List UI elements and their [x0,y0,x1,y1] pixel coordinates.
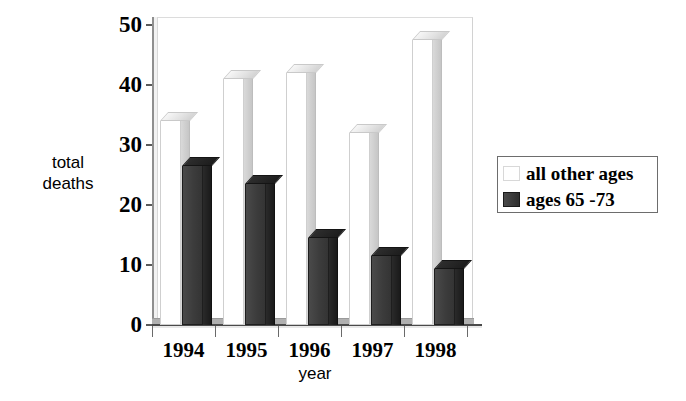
legend-item-ages-65-73: ages 65 -73 [503,186,652,212]
bar-1995-series-1 [223,79,244,325]
bar-1996-series-1 [286,73,307,325]
bar-front-face [434,269,455,325]
legend-swatch-all-other-ages [503,166,520,181]
bar-1994-series-2 [182,166,203,325]
bar-1997-series-2 [371,256,392,325]
chart-canvas: total deaths 01020304050 199419951996199… [0,0,686,401]
y-tick-label-0: 0 [96,313,142,336]
y-tick-label-50: 50 [96,13,142,36]
bar-1996-series-2 [308,238,329,325]
bar-front-face [182,166,203,325]
x-tick-mark-2 [278,326,279,337]
y-tick-label-40: 40 [96,73,142,96]
bar-front-face [245,184,266,325]
bar-1995-series-2 [245,184,266,325]
bar-front-face [371,256,392,325]
y-tick-label-10: 10 [96,253,142,276]
bar-1994-series-1 [160,121,181,325]
bar-front-face [412,40,433,325]
bar-front-face [286,73,307,325]
x-tick-mark-0 [152,326,153,337]
bar-front-face [349,133,370,325]
x-tick-mark-3 [341,326,342,337]
bar-side-face [203,166,212,325]
y-axis-line [152,17,154,325]
bar-side-face [455,269,464,325]
bar-front-face [223,79,244,325]
x-tick-mark-5 [467,326,468,337]
y-axis-wall [154,17,158,325]
bar-front-face [160,121,181,325]
x-tick-label-1998: 1998 [399,340,473,361]
bar-side-face [266,184,275,325]
y-axis-title: total deaths [22,152,114,194]
y-tick-label-20: 20 [96,193,142,216]
bar-1997-series-1 [349,133,370,325]
legend-label-all-other-ages: all other ages [526,164,633,183]
bar-1998-series-1 [412,40,433,325]
legend-item-all-other-ages: all other ages [503,160,652,186]
bar-side-face [392,256,401,325]
y-tick-label-30: 30 [96,133,142,156]
bar-side-face [329,238,338,325]
legend-label-ages-65-73: ages 65 -73 [526,190,615,209]
x-tick-mark-1 [215,326,216,337]
x-axis-title: year [255,364,375,383]
legend: all other ages ages 65 -73 [497,156,658,213]
bar-1998-series-2 [434,269,455,325]
legend-swatch-ages-65-73 [503,192,520,207]
x-tick-mark-4 [404,326,405,337]
bar-front-face [308,238,329,325]
